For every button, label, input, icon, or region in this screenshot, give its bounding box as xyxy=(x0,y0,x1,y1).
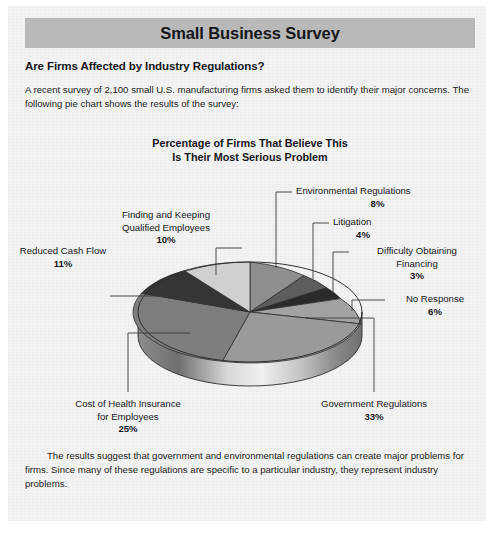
pie-label-cost-of-health-insurance: Cost of Health Insurance for Employees 2… xyxy=(55,398,201,436)
pie-label-name-line-1: Cost of Health Insurance xyxy=(55,398,201,411)
pie-label-environmental-regulations: Environmental Regulations 8% xyxy=(296,185,476,210)
chart-title: Percentage of Firms That Believe This Is… xyxy=(25,136,475,164)
pie-label-percent: 8% xyxy=(296,198,459,211)
page-root: Small Business Survey Are Firms Affected… xyxy=(0,0,500,546)
pie-label-name-line-1: Finding and Keeping xyxy=(96,209,236,222)
pie-label-no-response: No Response 6% xyxy=(389,293,481,318)
pie-label-percent: 4% xyxy=(333,229,393,242)
pie-label-percent: 6% xyxy=(389,306,481,319)
pie-label-name: No Response xyxy=(389,293,481,306)
pie-label-litigation: Litigation 4% xyxy=(333,216,463,241)
pie-label-percent: 11% xyxy=(16,258,110,271)
pie-label-name: Litigation xyxy=(333,216,463,229)
pie-label-percent: 25% xyxy=(55,423,201,436)
chart-title-line-2: Is Their Most Serious Problem xyxy=(172,151,327,163)
pie-label-name-line-2: Qualified Employees xyxy=(96,222,236,235)
pie-label-government-regulations: Government Regulations 33% xyxy=(300,398,448,423)
chart-title-line-1: Percentage of Firms That Believe This xyxy=(152,137,348,149)
pie-label-reduced-cash-flow: Reduced Cash Flow 11% xyxy=(16,245,110,270)
pie-label-percent: 33% xyxy=(300,411,448,424)
pie-label-percent: 3% xyxy=(353,270,481,283)
pie-label-difficulty-obtaining-financing: Difficulty Obtaining Financing 3% xyxy=(353,245,481,283)
intro-paragraph: A recent survey of 2,100 small U.S. manu… xyxy=(25,83,473,111)
pie-label-name-line-2: Financing xyxy=(353,258,481,271)
pie-label-name: Reduced Cash Flow xyxy=(16,245,110,258)
pie-label-percent: 10% xyxy=(96,234,236,247)
pie-label-name-line-2: for Employees xyxy=(55,411,201,424)
header-bar: Small Business Survey xyxy=(25,18,475,48)
closing-paragraph-text: The results suggest that government and … xyxy=(25,450,464,489)
pie-label-name: Environmental Regulations xyxy=(296,185,476,198)
pie-label-name-line-1: Difficulty Obtaining xyxy=(353,245,481,258)
closing-paragraph: The results suggest that government and … xyxy=(25,449,473,491)
pie-label-finding-keeping-qualified-employees: Finding and Keeping Qualified Employees … xyxy=(96,209,236,247)
pie-label-name: Government Regulations xyxy=(300,398,448,411)
section-subheading: Are Firms Affected by Industry Regulatio… xyxy=(25,60,465,72)
page-title: Small Business Survey xyxy=(25,18,475,48)
